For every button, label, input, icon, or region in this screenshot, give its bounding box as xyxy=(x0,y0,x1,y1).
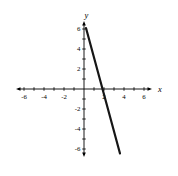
y-axis-top-arrow-icon xyxy=(82,21,86,26)
y-tick-label: 2 xyxy=(77,65,81,72)
coordinate-plane-chart: -6-4-2246642-2-4-6xy xyxy=(0,0,178,176)
y-tick-label: -6 xyxy=(75,145,81,152)
plotted-line xyxy=(86,28,120,154)
y-tick-label: -4 xyxy=(75,125,81,132)
x-axis-right-arrow-icon xyxy=(148,87,153,91)
y-tick-label: 4 xyxy=(77,45,81,52)
x-tick-label: 4 xyxy=(122,93,126,100)
y-axis-bottom-arrow-icon xyxy=(82,153,86,158)
x-axis-left-arrow-icon xyxy=(16,87,21,91)
x-tick-label: -2 xyxy=(61,93,67,100)
y-tick-label: 6 xyxy=(77,25,81,32)
graph-figure: -6-4-2246642-2-4-6xy xyxy=(0,0,178,176)
x-tick-label: -6 xyxy=(21,93,27,100)
y-axis-label: y xyxy=(84,10,89,20)
y-tick-label: -2 xyxy=(75,105,81,112)
x-axis-label: x xyxy=(157,84,162,94)
x-tick-label: -4 xyxy=(41,93,47,100)
x-tick-label: 6 xyxy=(142,93,146,100)
